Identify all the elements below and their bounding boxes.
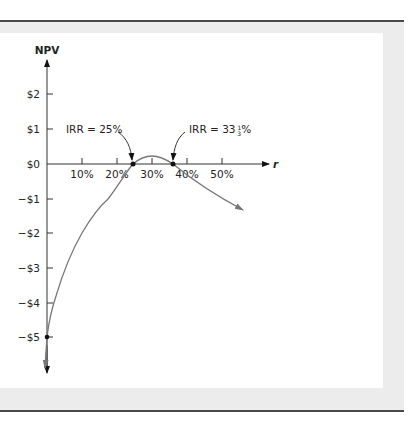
svg-text:$2: $2: [27, 88, 40, 100]
y-axis-label: NPV: [35, 44, 60, 56]
irr2-annotation-arrow: [173, 132, 185, 160]
svg-text:$0: $0: [27, 158, 40, 170]
npv-point-r0: [45, 335, 50, 340]
irr2-label: IRR = 3313%: [189, 123, 251, 137]
irr-point-33: [171, 162, 176, 167]
svg-text:10%: 10%: [70, 168, 93, 180]
x-tick-labels: 10% 20% 30% 40% 50%: [70, 168, 233, 180]
y-ticks: [47, 94, 53, 337]
npv-curve: [45, 156, 243, 368]
svg-text:40%: 40%: [175, 168, 198, 180]
npv-chart: NPV r $2 $1 $0 −$1 −$2 −$3 −$4 −$5 10% 2…: [0, 0, 415, 425]
svg-text:30%: 30%: [140, 168, 163, 180]
y-tick-labels: $2 $1 $0 −$1 −$2 −$3 −$4 −$5: [18, 88, 40, 343]
svg-text:$1: $1: [27, 123, 40, 135]
irr-point-25: [131, 162, 136, 167]
svg-text:50%: 50%: [210, 168, 233, 180]
irr1-annotation-arrow: [118, 132, 132, 160]
svg-text:−$1: −$1: [18, 193, 40, 205]
x-axis-label: r: [273, 158, 279, 170]
svg-text:−$5: −$5: [18, 331, 40, 343]
irr1-label: IRR = 25%: [66, 123, 123, 135]
svg-text:−$2: −$2: [18, 227, 40, 239]
x-ticks: [82, 158, 222, 164]
svg-text:−$4: −$4: [18, 297, 40, 309]
svg-text:−$3: −$3: [18, 262, 40, 274]
